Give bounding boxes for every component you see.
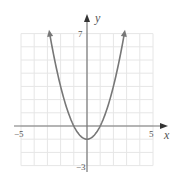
y-min-tick-label: −3 <box>76 162 86 172</box>
x-max-tick-label: 5 <box>149 129 154 139</box>
x-axis-label: x <box>163 128 170 142</box>
y-max-tick-label: 7 <box>78 29 83 39</box>
y-axis-label: y <box>94 11 101 25</box>
x-min-tick-label: −5 <box>14 129 24 139</box>
x-axis <box>14 123 168 129</box>
y-axis-arrow-icon <box>84 14 90 22</box>
parabola-chart: y x −5 5 7 −3 <box>0 0 180 180</box>
y-axis <box>84 14 90 172</box>
